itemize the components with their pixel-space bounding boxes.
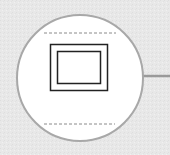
diagram-canvas [0, 0, 170, 155]
diagram-svg [0, 0, 170, 155]
node-circle[interactable] [17, 15, 143, 141]
